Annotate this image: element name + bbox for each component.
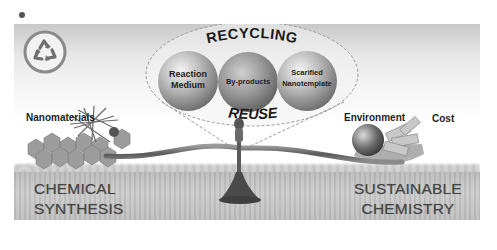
chemical-synthesis-caption: CHEMICAL SYNTHESIS <box>34 179 124 219</box>
environment-cost-illustration <box>352 117 424 165</box>
caption-line1: SUSTAINABLE <box>354 179 462 199</box>
sphere-label-line2: Nanotemplate <box>275 79 339 89</box>
panel-marker <box>19 12 25 18</box>
sphere-label-line1: Scarified <box>275 68 339 78</box>
nanomaterials-label: Nanomaterials <box>26 112 95 123</box>
environment-label: Environment <box>344 112 405 123</box>
reuse-title: REUSE <box>228 104 280 122</box>
caption-line2: SYNTHESIS <box>34 199 124 219</box>
sustainable-chemistry-caption: SUSTAINABLE CHEMISTRY <box>354 179 462 219</box>
caption-line1: CHEMICAL <box>34 179 124 199</box>
sphere-label-line1: By-products <box>218 77 278 87</box>
sphere-label-line2: Medium <box>158 80 218 90</box>
sphere-label-line1: Reaction <box>158 69 218 79</box>
figure-panel: RECYCLING REUSE Reaction Medium By-produ… <box>14 24 480 220</box>
caption-line2: CHEMISTRY <box>354 199 462 219</box>
balance-fulcrum <box>219 118 261 204</box>
cost-label: Cost <box>432 113 454 124</box>
